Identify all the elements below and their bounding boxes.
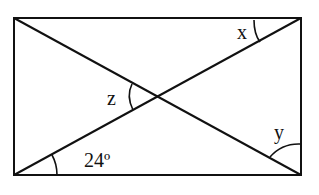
label-x: x (237, 21, 247, 43)
label-z: z (107, 87, 116, 109)
angle-arc-x (254, 20, 260, 42)
angle-arc-24 (52, 155, 57, 175)
angle-arc-y (270, 144, 301, 157)
geometry-diagram: x z y 24º (0, 0, 319, 195)
label-angle-24: 24º (84, 149, 110, 171)
label-y: y (274, 121, 284, 144)
angle-arc-z (129, 84, 133, 110)
